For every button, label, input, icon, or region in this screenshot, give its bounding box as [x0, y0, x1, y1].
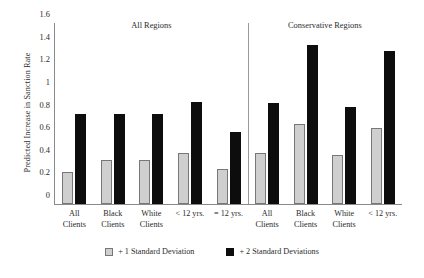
bar-2-sd — [307, 45, 318, 205]
x-category-label: BlackClients — [101, 209, 124, 230]
y-axis-title: Predicted Increase in Sanction Rate — [23, 18, 32, 208]
y-tick-label: 1.2 — [40, 55, 50, 64]
bar-group — [332, 107, 356, 204]
bar-group — [139, 114, 163, 205]
legend-item-1-sd: + 1 Standard Deviation — [105, 247, 194, 256]
y-tick-label: 1 — [46, 77, 50, 86]
bar-chart-figure: Predicted Increase in Sanction Rate 00.2… — [0, 0, 424, 278]
bar-1-sd — [178, 153, 189, 204]
legend-item-2-sd: + 2 Standard Deviations — [226, 247, 318, 256]
y-tick-label: 1.6 — [40, 10, 50, 19]
x-category-label: WhiteClients — [140, 209, 163, 230]
bar-1-sd — [62, 172, 73, 204]
legend-label-2-sd: + 2 Standard Deviations — [239, 247, 318, 256]
bar-2-sd — [345, 107, 356, 204]
bar-2-sd — [75, 114, 86, 205]
y-tick-label: 0.6 — [40, 123, 50, 132]
bar-group — [255, 103, 279, 204]
y-tick-label: 1.4 — [40, 32, 50, 41]
x-category-label: BlackClients — [294, 209, 317, 230]
bar-1-sd — [101, 160, 112, 204]
y-tick-label: 0.2 — [40, 168, 50, 177]
y-tick-label: 0 — [46, 191, 50, 200]
bar-group — [62, 114, 86, 205]
bar-2-sd — [152, 114, 163, 205]
panel-title: Conservative Regions — [288, 21, 362, 30]
legend-label-1-sd: + 1 Standard Deviation — [118, 247, 194, 256]
panel-divider — [248, 23, 249, 204]
bar-1-sd — [217, 169, 228, 204]
bar-1-sd — [332, 155, 343, 204]
bar-1-sd — [139, 160, 150, 204]
bar-2-sd — [230, 132, 241, 204]
light-gray-swatch — [105, 248, 113, 256]
bar-group — [101, 114, 125, 205]
plot-area: 00.20.40.60.811.21.41.6All RegionsAllCli… — [54, 23, 402, 205]
y-tick-label: 0.4 — [40, 145, 50, 154]
y-tick-label: 0.8 — [40, 100, 50, 109]
bar-group — [371, 51, 395, 204]
x-category-label: < 12 yrs. — [175, 209, 204, 220]
x-category-label: WhiteClients — [333, 209, 356, 230]
bar-2-sd — [268, 103, 279, 204]
x-category-label: AllClients — [255, 209, 278, 230]
bar-1-sd — [255, 153, 266, 204]
x-category-label: = 12 yrs. — [214, 209, 243, 220]
bar-1-sd — [294, 124, 305, 204]
bar-2-sd — [191, 102, 202, 204]
bar-group — [217, 132, 241, 204]
bar-group — [178, 102, 202, 204]
x-category-label: AllClients — [63, 209, 86, 230]
panel-title: All Regions — [131, 21, 171, 30]
bar-group — [294, 45, 318, 205]
x-category-label: < 12 yrs. — [368, 209, 397, 220]
chart-legend: + 1 Standard Deviation + 2 Standard Devi… — [0, 247, 424, 256]
bar-1-sd — [371, 128, 382, 204]
bar-2-sd — [384, 51, 395, 204]
bar-2-sd — [114, 114, 125, 205]
black-swatch — [226, 248, 234, 256]
